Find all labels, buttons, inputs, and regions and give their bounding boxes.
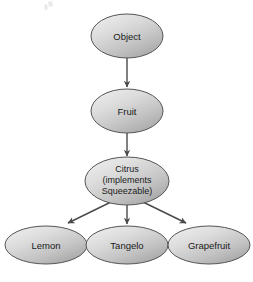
- node-tangelo[interactable]: Tangelo: [86, 226, 168, 264]
- node-object[interactable]: Object: [91, 14, 163, 58]
- node-grapefruit-label: Grapefruit: [188, 240, 231, 251]
- scan-artifact: [44, 1, 53, 10]
- edge-citrus-lemon: [68, 202, 111, 223]
- node-fruit[interactable]: Fruit: [91, 89, 163, 133]
- diagram-canvas: Object Fruit Citrus (implements Squeezab…: [0, 0, 253, 282]
- node-citrus[interactable]: Citrus (implements Squeezable): [85, 157, 169, 205]
- node-lemon-label: Lemon: [31, 240, 60, 251]
- class-hierarchy-diagram: Object Fruit Citrus (implements Squeezab…: [0, 0, 253, 282]
- node-citrus-label-line1: Citrus: [115, 164, 139, 174]
- node-object-label: Object: [113, 31, 141, 42]
- edge-citrus-grapefruit: [143, 202, 186, 223]
- node-lemon[interactable]: Lemon: [5, 226, 87, 264]
- node-grapefruit[interactable]: Grapefruit: [168, 226, 250, 264]
- node-citrus-label-line2: (implements: [102, 175, 152, 185]
- node-citrus-label-line3: Squeezable): [102, 186, 153, 196]
- node-fruit-label: Fruit: [118, 106, 137, 117]
- node-tangelo-label: Tangelo: [110, 240, 143, 251]
